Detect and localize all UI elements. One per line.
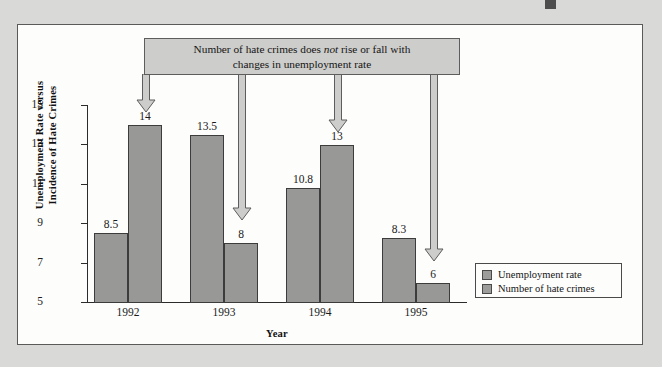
bar-label-1993-hatecrimes: 8 <box>217 229 265 241</box>
legend-swatch-icon <box>482 270 492 280</box>
x-tick-label-1995: 1995 <box>381 306 451 318</box>
bar-1995-hatecrimes <box>416 283 450 303</box>
bar-1993-hatecrimes <box>224 243 258 303</box>
legend-label-hate-crimes: Number of hate crimes <box>498 283 595 294</box>
callout-annotation: Number of hate crimes does not rise or f… <box>144 38 460 75</box>
bar-label-1993-unemployment: 13.5 <box>183 121 231 133</box>
chart-legend: Unemployment rate Number of hate crimes <box>475 263 622 298</box>
callout-arrow-3 <box>328 74 348 133</box>
bar-label-1995-hatecrimes: 6 <box>409 269 457 281</box>
y-tick-mark <box>81 184 88 185</box>
y-tick-mark <box>81 144 88 145</box>
callout-arrow-2 <box>232 74 252 221</box>
figure-panel: 15 13 11 9 7 5 Unemployment Rate versus … <box>17 24 643 345</box>
callout-line1-after: rise or fall with <box>338 43 410 55</box>
y-tick-label: 5 <box>3 296 43 308</box>
bar-label-1995-unemployment: 8.3 <box>375 224 423 236</box>
bar-1994-hatecrimes <box>320 145 354 303</box>
bar-1992-unemployment <box>94 233 128 303</box>
x-axis-title: Year <box>87 328 467 339</box>
y-axis-title-line2: Incidence of Hate Crimes <box>47 86 58 205</box>
callout-emphasis: not <box>324 43 338 55</box>
chart-plot-area: 15 13 11 9 7 5 Unemployment Rate versus … <box>18 25 644 346</box>
callout-text: Number of hate crimes does not rise or f… <box>188 42 417 72</box>
y-tick-label: 7 <box>3 257 43 269</box>
callout-line1-before: Number of hate crimes does <box>194 43 324 55</box>
callout-arrow-1 <box>136 74 156 113</box>
legend-item-unemployment-rate: Unemployment rate <box>482 268 615 281</box>
y-tick-mark <box>81 302 88 303</box>
callout-line2: changes in unemployment rate <box>233 58 371 70</box>
bar-1993-unemployment <box>190 135 224 303</box>
legend-item-hate-crimes: Number of hate crimes <box>482 282 615 295</box>
bar-1992-hatecrimes <box>128 125 162 303</box>
legend-swatch-icon <box>482 284 492 294</box>
bar-1994-unemployment <box>286 188 320 303</box>
y-tick-mark <box>81 105 88 106</box>
x-tick-label-1994: 1994 <box>285 306 355 318</box>
callout-arrow-4 <box>424 74 444 262</box>
figure-root: 15 13 11 9 7 5 Unemployment Rate versus … <box>0 0 662 367</box>
x-tick-label-1993: 1993 <box>189 306 259 318</box>
y-tick-mark <box>81 263 88 264</box>
y-axis-title-line1: Unemployment Rate versus <box>34 81 45 209</box>
corner-mark <box>545 0 556 9</box>
x-tick-label-1992: 1992 <box>93 306 163 318</box>
y-axis-line <box>87 105 88 303</box>
y-axis-title: Unemployment Rate versus Incidence of Ha… <box>31 55 61 235</box>
legend-label-unemployment-rate: Unemployment rate <box>498 269 582 280</box>
